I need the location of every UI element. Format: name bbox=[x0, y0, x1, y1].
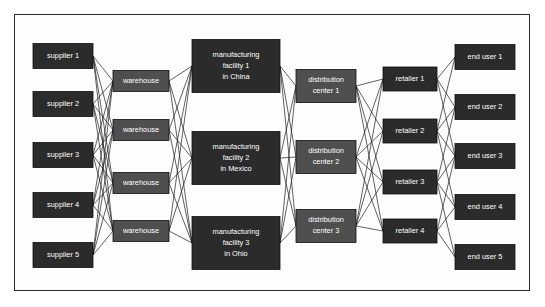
node-label: manufacturing bbox=[213, 50, 260, 59]
node-label: in Ohio bbox=[224, 249, 247, 258]
node-e2[interactable]: end user 2 bbox=[455, 95, 515, 120]
connection-line bbox=[437, 231, 455, 257]
diagram-canvas: supplier 1supplier 2supplier 3supplier 4… bbox=[0, 0, 545, 307]
connection-line bbox=[169, 66, 192, 183]
node-label: manufacturing bbox=[213, 227, 260, 236]
node-label: manufacturing bbox=[213, 142, 260, 151]
connection-line bbox=[280, 157, 296, 158]
node-e1[interactable]: end user 1 bbox=[455, 45, 515, 70]
node-label: facility 1 bbox=[223, 61, 250, 70]
node-label: supplier 3 bbox=[47, 150, 79, 159]
connection-line bbox=[169, 183, 192, 243]
node-label: center 3 bbox=[313, 226, 340, 235]
node-label: warehouse bbox=[122, 226, 159, 235]
node-label: facility 2 bbox=[223, 153, 250, 162]
node-w2[interactable]: warehouse bbox=[113, 120, 169, 141]
node-e3[interactable]: end user 3 bbox=[455, 144, 515, 169]
node-s2[interactable]: supplier 2 bbox=[33, 92, 93, 117]
node-w4[interactable]: warehouse bbox=[113, 221, 169, 242]
connection-line bbox=[356, 86, 383, 231]
node-label: retailer 2 bbox=[396, 126, 425, 135]
node-label: retailer 4 bbox=[396, 226, 425, 235]
node-label: warehouse bbox=[122, 76, 159, 85]
node-s5[interactable]: supplier 5 bbox=[33, 243, 93, 268]
node-label: center 1 bbox=[313, 86, 340, 95]
node-label: supplier 1 bbox=[47, 51, 79, 60]
node-r2[interactable]: retailer 2 bbox=[383, 119, 437, 143]
node-label: end user 3 bbox=[468, 151, 503, 160]
node-s4[interactable]: supplier 4 bbox=[33, 193, 93, 218]
node-d2[interactable]: distributioncenter 2 bbox=[296, 141, 356, 174]
connection-line bbox=[169, 66, 192, 81]
node-m2[interactable]: manufacturingfacility 2in Mexico bbox=[192, 132, 280, 185]
node-label: facility 3 bbox=[223, 238, 250, 247]
node-label: distribution bbox=[308, 215, 344, 224]
node-label: supplier 4 bbox=[47, 200, 79, 209]
connection-line bbox=[437, 156, 455, 182]
node-label: supplier 5 bbox=[47, 250, 79, 259]
node-label: supplier 2 bbox=[47, 99, 79, 108]
node-label: in Mexico bbox=[220, 164, 251, 173]
supply-chain-diagram: supplier 1supplier 2supplier 3supplier 4… bbox=[0, 0, 545, 307]
node-label: distribution bbox=[308, 146, 344, 155]
node-label: retailer 3 bbox=[396, 177, 425, 186]
connection-line bbox=[356, 79, 383, 86]
node-label: end user 4 bbox=[468, 202, 503, 211]
node-r1[interactable]: retailer 1 bbox=[383, 67, 437, 91]
node-e5[interactable]: end user 5 bbox=[455, 245, 515, 270]
node-m3[interactable]: manufacturingfacility 3in Ohio bbox=[192, 217, 280, 270]
node-e4[interactable]: end user 4 bbox=[455, 195, 515, 220]
node-label: in China bbox=[222, 72, 250, 81]
node-w3[interactable]: warehouse bbox=[113, 173, 169, 194]
node-label: end user 5 bbox=[468, 252, 503, 261]
node-w1[interactable]: warehouse bbox=[113, 71, 169, 92]
node-label: distribution bbox=[308, 75, 344, 84]
node-s3[interactable]: supplier 3 bbox=[33, 143, 93, 168]
connection-line bbox=[169, 130, 192, 158]
node-d1[interactable]: distributioncenter 1 bbox=[296, 70, 356, 103]
node-r4[interactable]: retailer 4 bbox=[383, 219, 437, 243]
connection-line bbox=[356, 226, 383, 231]
node-s1[interactable]: supplier 1 bbox=[33, 44, 93, 69]
node-label: warehouse bbox=[122, 125, 159, 134]
node-d3[interactable]: distributioncenter 3 bbox=[296, 210, 356, 243]
node-label: center 2 bbox=[313, 157, 340, 166]
node-label: end user 1 bbox=[468, 52, 503, 61]
node-r3[interactable]: retailer 3 bbox=[383, 170, 437, 194]
connection-line bbox=[280, 66, 296, 86]
node-label: end user 2 bbox=[468, 102, 503, 111]
connection-line bbox=[93, 81, 113, 255]
node-label: warehouse bbox=[122, 178, 159, 187]
node-label: retailer 1 bbox=[396, 74, 425, 83]
connection-line bbox=[169, 231, 192, 243]
node-m1[interactable]: manufacturingfacility 1in China bbox=[192, 40, 280, 93]
